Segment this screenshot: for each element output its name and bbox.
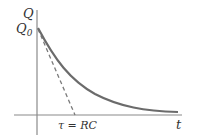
x-axis-label: t xyxy=(176,117,182,132)
tangent-line xyxy=(38,29,75,115)
decay-curve xyxy=(38,28,178,112)
tau-label: τ = RC xyxy=(58,119,98,132)
y-axis-label: Q xyxy=(23,6,34,21)
initial-charge-label: Q0 xyxy=(16,21,33,38)
discharge-diagram: Q Q0 t τ = RC xyxy=(0,0,197,140)
